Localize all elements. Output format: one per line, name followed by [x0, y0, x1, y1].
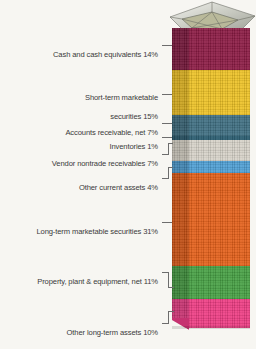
segment-side-face: [172, 266, 189, 299]
leader-vendor-nontrade-receivables-tip: [168, 143, 173, 144]
label-other-long-term-assets: Other long-term assets 10%: [18, 319, 158, 347]
segment-front-face: [189, 140, 250, 161]
segment-long-term-marketable-securities: [172, 173, 250, 266]
label-other-current-assets: Other current assets 4%: [18, 174, 158, 202]
segment-side-face: [172, 70, 189, 115]
segment-side-face: [172, 161, 189, 173]
leader-accounts-receivable-net: [162, 123, 172, 124]
label-cash-and-cash-equivalents: Cash and cash equivalents 14%: [18, 41, 158, 69]
segment-other-current-assets: [172, 161, 250, 173]
leader-vendor-nontrade-receivables-elbow: [168, 143, 169, 155]
segment-side-face: [172, 28, 189, 70]
leader-other-current-assets-elbow: [168, 167, 169, 179]
segment-property-plant-equipment-net: [172, 266, 250, 299]
segment-front-face: [189, 70, 250, 115]
segment-front-face: [189, 115, 250, 136]
leader-property-plant-equipment-net-tip: [168, 287, 174, 288]
segment-side-face: [172, 115, 189, 136]
leader-inventories: [162, 137, 172, 138]
label-property-plant-equipment-net: Property, plant & equipment, net 11%: [2, 268, 158, 296]
chart-canvas: Cash and cash equivalents 14% Short-term…: [0, 0, 256, 349]
leader-other-long-term-assets-tip: [168, 311, 174, 312]
segment-front-face: [189, 299, 250, 328]
leader-property-plant-equipment-net-elbow: [168, 272, 169, 288]
segment-vendor-nontrade-receivables: [172, 140, 250, 161]
segment-front-face: [189, 28, 250, 70]
segment-side-face: [172, 140, 189, 161]
leader-short-term-marketable-securities: [162, 94, 172, 95]
segment-accounts-receivable-net: [172, 115, 250, 136]
stacked-column: [172, 28, 250, 328]
column-base-shadow: [172, 326, 250, 329]
label-long-term-marketable-securities: Long-term marketable securities 31%: [4, 218, 158, 246]
segment-short-term-marketable-securities: [172, 70, 250, 115]
segment-front-face: [189, 161, 250, 173]
segment-cash-and-cash-equivalents: [172, 28, 250, 70]
segment-front-face: [189, 266, 250, 299]
leader-other-current-assets-tip: [168, 167, 173, 168]
segment-side-face: [172, 173, 189, 266]
leader-long-term-marketable-securities: [162, 222, 172, 223]
leader-other-long-term-assets-elbow: [168, 311, 169, 324]
leader-cash-and-cash-equivalents: [162, 45, 172, 46]
segment-front-face: [189, 173, 250, 266]
